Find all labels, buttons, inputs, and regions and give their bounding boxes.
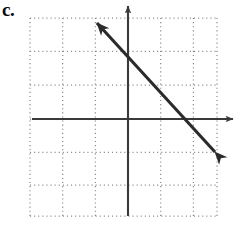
coordinate-plane [0,0,240,232]
grid-vertical-lines [30,18,217,216]
grid-horizontal-lines [30,18,217,216]
figure-container: c. [0,0,240,232]
plotted-line [97,23,215,152]
